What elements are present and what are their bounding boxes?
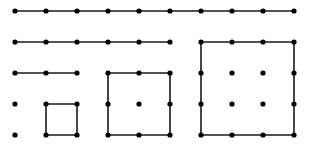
lattice-dot [105,132,110,137]
lattice-dot [229,101,234,106]
lattice-dot [12,39,17,44]
lattice-dot [136,101,141,106]
lattice-dot [136,132,141,137]
lattice-dot [198,132,203,137]
lattice-dot [43,8,48,13]
lattice-dot [105,101,110,106]
lattice-dot [12,70,17,75]
lattice-dot [74,39,79,44]
lattice-dot [167,132,172,137]
lattice-dot [291,39,296,44]
lattice-dot [198,39,203,44]
dot-grid-diagram [0,0,310,152]
lattice-dot [12,132,17,137]
lattice-dot [43,70,48,75]
lattice-dot [198,70,203,75]
lattice-dot [167,70,172,75]
line-layer [15,11,294,135]
lattice-dot [260,8,265,13]
lattice-dot [43,101,48,106]
large-square [201,42,294,135]
lattice-dot [105,70,110,75]
lattice-dot [167,8,172,13]
lattice-dot [198,8,203,13]
lattice-dot [74,101,79,106]
lattice-dot [136,8,141,13]
lattice-dot [136,70,141,75]
small-square [46,104,77,135]
lattice-dot [43,39,48,44]
lattice-dot [136,39,141,44]
lattice-dot [198,101,203,106]
lattice-dot [74,8,79,13]
lattice-dot [43,132,48,137]
lattice-dot [229,132,234,137]
lattice-dot [12,8,17,13]
lattice-dot [105,39,110,44]
lattice-dot [74,70,79,75]
lattice-dot [105,8,110,13]
lattice-dot [291,8,296,13]
lattice-dot [12,101,17,106]
lattice-dot [291,70,296,75]
lattice-dot [167,101,172,106]
lattice-dot [229,70,234,75]
lattice-dot [291,132,296,137]
lattice-dot [229,39,234,44]
lattice-dot [74,132,79,137]
lattice-dot [291,101,296,106]
lattice-dot [260,101,265,106]
lattice-dot [260,39,265,44]
lattice-dot [167,39,172,44]
lattice-dot [260,70,265,75]
lattice-dot [260,132,265,137]
lattice-dot [229,8,234,13]
